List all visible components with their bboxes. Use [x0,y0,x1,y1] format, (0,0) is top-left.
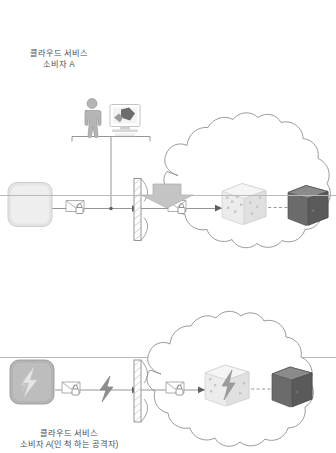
label-line-2: 소비자 A(인 척 하는 공격자) [0,439,139,450]
panel-attack-scenario: 클라우드 서비스 소비자 A(인 척 하는 공격자) [0,208,336,359]
connection-lines [55,389,272,390]
label-line-1: 클라우드 서비스 [40,429,97,438]
encrypted-message-icon [62,382,80,395]
cloud-encrypted-message-icon [166,382,184,395]
panel-normal-scenario: 클라우드 서비스 소비자 A [0,0,336,178]
label-line-1: 클라우드 서비스 [30,49,87,58]
compromised-server-cluster-icon [205,365,249,406]
dark-server-icon [272,367,312,407]
rounded-attacker-device-icon [10,360,54,404]
person-icon [85,99,101,138]
label-normal-scenario: 클라우드 서비스 소비자 A [4,48,114,70]
label-attack-scenario: 클라우드 서비스 소비자 A(인 척 하는 공격자) [0,428,139,450]
label-line-2: 소비자 A [4,59,114,70]
monitor-icon [110,105,140,136]
firewall-icon [134,360,148,422]
down-arrow-icon [139,183,195,209]
panel-attack-graphics [0,208,336,453]
line-markers [132,386,205,393]
lightning-bolt-icon [100,376,113,402]
cloud-outline [147,311,314,446]
